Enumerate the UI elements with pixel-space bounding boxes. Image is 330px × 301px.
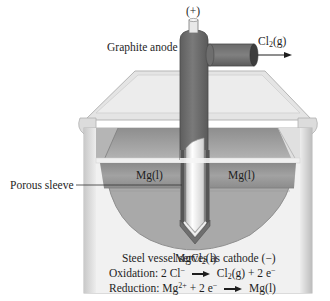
graphite-anode-label: Graphite anode <box>107 42 178 54</box>
oxidation-equation: Oxidation: 2 Cl− Cl2(g) + 2 e− <box>109 268 276 280</box>
reduction-reactant-base: Mg <box>162 282 178 294</box>
cl2-state: (g) <box>273 35 286 47</box>
chlorine-gas-arrow <box>258 52 292 58</box>
mg-left-label: Mg(l) <box>136 170 163 182</box>
reduction-reactant-charge: 2+ <box>178 281 187 290</box>
reduction-product: Mg(l) <box>249 282 276 294</box>
mg-right-label: Mg(l) <box>228 170 255 182</box>
oxidation-product-charge: − <box>271 266 276 275</box>
cl2-base: Cl <box>258 35 269 47</box>
cathode-note-text: Steel vessel serves as cathode (−) <box>122 253 276 265</box>
reduction-label: Reduction: <box>109 282 159 294</box>
porous-sleeve-label: Porous sleeve <box>10 180 74 192</box>
polarity-label: (+) <box>186 6 200 18</box>
reaction-arrow-icon <box>224 285 242 293</box>
oxidation-product-tail: (g) + 2 e <box>232 267 271 279</box>
oxidation-reactant: 2 Cl <box>161 267 181 279</box>
reduction-equation: Reduction: Mg2+ + 2 e− Mg(l) <box>109 283 276 295</box>
chlorine-gas-label: Cl2(g) <box>258 36 286 48</box>
reaction-arrow-icon <box>192 270 210 278</box>
oxidation-label: Oxidation: <box>109 267 158 279</box>
reduction-electron-charge: − <box>213 281 218 290</box>
oxidation-reactant-charge: − <box>181 266 186 275</box>
reduction-reactant-tail: + 2 e <box>187 282 213 294</box>
oxidation-product-base: Cl <box>217 267 228 279</box>
